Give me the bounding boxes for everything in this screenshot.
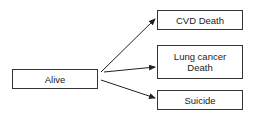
arrow-alive-to-lung-cancer-death [104, 67, 155, 72]
node-suicide-label: Suicide [184, 95, 215, 106]
node-cvd-death: CVD Death [157, 10, 243, 30]
node-lung-cancer-death: Lung cancer Death [157, 45, 243, 79]
arrow-alive-to-cvd-death [101, 19, 155, 72]
node-lung-cancer-death-label: Lung cancer Death [174, 51, 226, 73]
node-cvd-death-label: CVD Death [176, 15, 224, 26]
arrow-alive-to-suicide [101, 80, 155, 98]
node-suicide: Suicide [157, 90, 243, 110]
node-alive-label: Alive [45, 74, 66, 85]
node-alive: Alive [12, 69, 98, 89]
